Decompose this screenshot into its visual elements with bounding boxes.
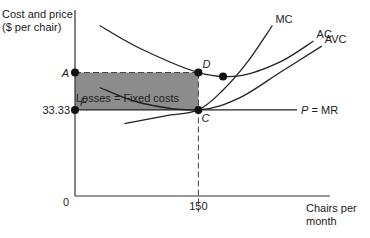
x-axis-label-line1: Chairs per	[306, 202, 357, 214]
point-label-c: C	[201, 112, 209, 124]
point-d	[194, 69, 202, 77]
curve-label-rest: = MR	[308, 104, 338, 116]
point-min-ac	[219, 72, 227, 80]
point-label-d: D	[202, 58, 210, 70]
point-label-a: A	[61, 67, 69, 79]
point-a	[71, 69, 79, 77]
y-axis-label-line2: ($ per chair)	[2, 21, 61, 33]
origin-label: 0	[63, 196, 69, 208]
y-tick-label: 33.33	[42, 104, 70, 116]
curve-label-p-mr: P = MR	[301, 104, 338, 116]
x-axis-label-line2: month	[306, 215, 337, 227]
curve-label-avc: AVC	[325, 33, 347, 45]
point-f	[71, 106, 79, 114]
curve-label-mc: MC	[275, 13, 292, 25]
y-axis-label-line1: Cost and price	[2, 8, 73, 20]
x-tick-label: 150	[189, 200, 207, 212]
losses-annotation: Losses = Fixed costs	[76, 92, 180, 104]
cost-curves-chart: MCACAVCP = MRADFC33.33150 Cost and price…	[0, 0, 370, 238]
